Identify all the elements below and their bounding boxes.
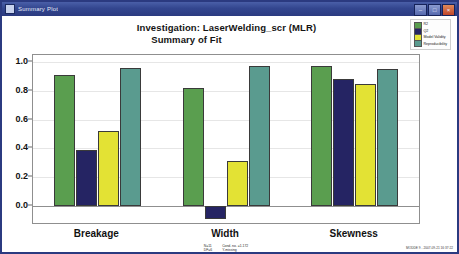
plot-window-icon (5, 4, 15, 14)
y-tick-label-4: 0.8 (15, 85, 28, 95)
chart-footnote: N=11DF=6 Cond. no. =1.172Y-missing (32, 244, 420, 252)
page-title: Investigation: LaserWelding_scr (MLR) Su… (2, 22, 457, 46)
y-axis: 0.00.20.40.60.81.0 (2, 54, 32, 224)
legend-label-0: R2 (423, 22, 447, 27)
x-tick-label-width: Width (211, 228, 239, 239)
footnote-line-1: DF=6 (204, 248, 212, 252)
chart-subtitle: Investigation: LaserWelding_scr (MLR) (2, 22, 457, 34)
zero-axis-line (33, 206, 419, 207)
y-tick-label-3: 0.6 (15, 114, 28, 124)
bar-skewness-reproducibility[interactable] (377, 69, 398, 205)
y-tick-label-5: 1.0 (15, 56, 28, 66)
footnote-line-1: Y-missing (222, 248, 248, 252)
legend-label-1: Q2 (423, 29, 447, 34)
bar-breakage-r2[interactable] (54, 75, 75, 206)
maximize-button[interactable]: □ (428, 4, 441, 16)
window-controls: – □ × (414, 4, 455, 16)
gridline-5 (33, 62, 419, 63)
legend-label-3: Reproducibility (423, 42, 447, 47)
software-timestamp: MODDE 9 - 2007-09-21 16:37:22 (406, 246, 453, 250)
x-tick-label-skewness: Skewness (329, 228, 377, 239)
bar-width-model-validity[interactable] (227, 161, 248, 206)
close-button[interactable]: × (442, 4, 455, 16)
bar-width-reproducibility[interactable] (249, 66, 270, 205)
legend-swatch-3 (414, 40, 422, 47)
x-axis: BreakageWidthSkewness (32, 228, 420, 244)
window-titlebar[interactable]: Summary Plot – □ × (2, 2, 457, 16)
chart-legend: R2Q2Model ValidityReproducibility (410, 19, 451, 50)
bar-skewness-model-validity[interactable] (355, 84, 376, 206)
bar-width-r2[interactable] (183, 88, 204, 206)
chart-title-text: Summary of Fit (2, 34, 457, 46)
legend-swatches (414, 22, 420, 47)
bar-width-q2[interactable] (205, 206, 226, 219)
plot-client-area: Investigation: LaserWelding_scr (MLR) Su… (2, 16, 457, 252)
bar-breakage-reproducibility[interactable] (120, 68, 141, 206)
y-tick-label-1: 0.2 (15, 171, 28, 181)
plot-area (32, 54, 420, 224)
summary-plot-window: Summary Plot – □ × Investigation: LaserW… (0, 0, 459, 254)
bar-breakage-q2[interactable] (76, 150, 97, 206)
y-tick-label-0: 0.0 (15, 200, 28, 210)
footnote-left: N=11DF=6 (204, 244, 212, 252)
bar-skewness-q2[interactable] (333, 79, 354, 205)
x-tick-label-breakage: Breakage (74, 228, 119, 239)
window-title: Summary Plot (18, 6, 58, 12)
bar-skewness-r2[interactable] (311, 66, 332, 205)
footnote-center: Cond. no. =1.172Y-missing (222, 244, 248, 252)
legend-label-2: Model Validity (423, 35, 447, 40)
legend-labels: R2Q2Model ValidityReproducibility (423, 22, 447, 47)
bar-breakage-model-validity[interactable] (98, 131, 119, 206)
y-tick-label-2: 0.4 (15, 142, 28, 152)
minimize-button[interactable]: – (414, 4, 427, 16)
